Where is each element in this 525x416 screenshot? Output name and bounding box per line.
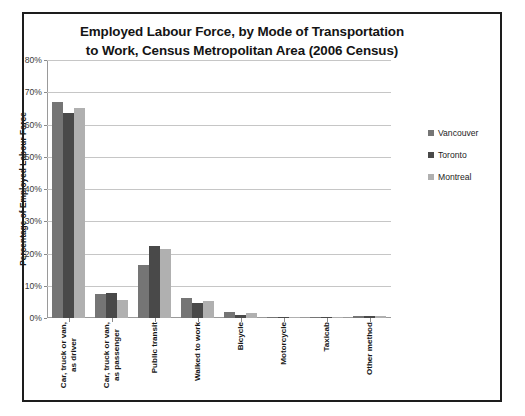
plot-area: 80%70%60%50%40%30%20%10%0% <box>47 60 391 318</box>
bar-group <box>176 60 219 318</box>
bar-vancouver[interactable] <box>224 312 235 318</box>
bar-group <box>348 60 391 318</box>
legend-item-montreal[interactable]: Montreal <box>428 172 478 182</box>
legend-item-toronto[interactable]: Toronto <box>428 150 478 160</box>
y-axis-tick-label: 30% <box>25 216 42 226</box>
gridline <box>47 318 391 319</box>
chart-title: Employed Labour Force, by Mode of Transp… <box>32 22 452 61</box>
y-axis-tick-label: 60% <box>25 120 42 130</box>
legend-item-label: Toronto <box>438 150 467 160</box>
bar-group <box>219 60 262 318</box>
bar-vancouver[interactable] <box>310 317 321 318</box>
y-axis-tick-label: 10% <box>25 281 42 291</box>
legend-swatch-icon <box>428 174 434 180</box>
legend-item-vancouver[interactable]: Vancouver <box>428 128 478 138</box>
bar-vancouver[interactable] <box>181 298 192 318</box>
bar-montreal[interactable] <box>203 301 214 318</box>
bar-montreal[interactable] <box>332 317 343 318</box>
bar-montreal[interactable] <box>160 249 171 318</box>
x-axis-category: Bicycle <box>219 322 262 396</box>
x-axis-category-label: Walked to work <box>193 322 203 381</box>
x-axis-category: Motorcycle <box>262 322 305 396</box>
legend-item-label: Montreal <box>438 172 471 182</box>
x-axis-category: Public transit <box>133 322 176 396</box>
x-axis-category: Other method <box>348 322 391 396</box>
bar-montreal[interactable] <box>117 300 128 318</box>
y-axis-tick-mark <box>44 318 47 319</box>
chart-title-line-1: Employed Labour Force, by Mode of Transp… <box>32 22 452 41</box>
bar-montreal[interactable] <box>246 313 257 318</box>
y-axis-tick-label: 50% <box>25 152 42 162</box>
chart-title-line-2: to Work, Census Metropolitan Area (2006 … <box>32 41 452 60</box>
bar-group <box>90 60 133 318</box>
x-axis-category-label: Other method <box>365 322 375 375</box>
x-axis-category-label: Taxicab <box>322 322 332 352</box>
y-axis-tick-label: 40% <box>25 184 42 194</box>
x-axis-category-labels: Car, truck or van, as driverCar, truck o… <box>47 322 391 396</box>
bar-groups <box>47 60 391 318</box>
y-axis-tick-label: 80% <box>25 55 42 65</box>
x-axis-category-label: Bicycle <box>236 322 246 350</box>
bar-group <box>133 60 176 318</box>
legend-swatch-icon <box>428 130 434 136</box>
y-axis-tick-label: 20% <box>25 249 42 259</box>
bar-montreal[interactable] <box>289 317 300 318</box>
bar-toronto[interactable] <box>106 293 117 318</box>
x-axis-category: Car, truck or van, as driver <box>47 322 90 396</box>
x-axis-category-label: Car, truck or van, as passenger <box>102 322 122 388</box>
y-axis-tick-label: 0% <box>30 313 42 323</box>
bar-vancouver[interactable] <box>138 265 149 318</box>
x-axis-category-label: Public transit <box>150 322 160 373</box>
bar-toronto[interactable] <box>63 113 74 318</box>
bar-vancouver[interactable] <box>52 102 63 318</box>
y-axis-tick-label: 70% <box>25 87 42 97</box>
x-axis-category: Walked to work <box>176 322 219 396</box>
bar-montreal[interactable] <box>74 108 85 318</box>
cutoff-text-remnant: · · · <box>98 0 398 4</box>
bar-group <box>47 60 90 318</box>
x-axis-category: Car, truck or van, as passenger <box>90 322 133 396</box>
bar-group <box>305 60 348 318</box>
legend-swatch-icon <box>428 152 434 158</box>
chart-legend: VancouverTorontoMontreal <box>428 128 478 194</box>
x-axis-category: Taxicab <box>305 322 348 396</box>
chart-screenshot: · · · Employed Labour Force, by Mode of … <box>0 0 525 416</box>
x-axis-category-label: Motorcycle <box>279 322 289 365</box>
bar-vancouver[interactable] <box>95 294 106 318</box>
bar-group <box>262 60 305 318</box>
bar-montreal[interactable] <box>375 316 386 318</box>
bar-toronto[interactable] <box>149 246 160 318</box>
bar-vancouver[interactable] <box>267 317 278 318</box>
legend-item-label: Vancouver <box>438 128 478 138</box>
bar-toronto[interactable] <box>192 303 203 318</box>
bar-vancouver[interactable] <box>353 316 364 318</box>
x-axis-category-label: Car, truck or van, as driver <box>59 322 79 388</box>
